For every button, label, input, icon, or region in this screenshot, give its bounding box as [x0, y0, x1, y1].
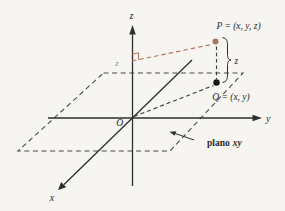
point-p [213, 39, 219, 45]
plane-label-axes: xy [232, 138, 243, 148]
point-p-label: P = (x, y, z) [215, 21, 260, 32]
z-axis-arrowhead-icon [129, 25, 136, 35]
oq-segment [134, 86, 214, 117]
z-axis-label: z [129, 10, 134, 21]
plane-pointer-arrow [174, 133, 195, 140]
y-axis-label: y [265, 113, 271, 124]
p-to-zaxis-segment [132, 45, 212, 62]
point-q-label: Q = (x, y) [212, 92, 250, 103]
coordinate-diagram: z y x O P = (x, y, z) Q = (x, y) z z pla… [0, 0, 285, 211]
origin-label: O [116, 118, 123, 128]
plane-pointer-arrowhead-icon [170, 131, 177, 135]
z-distance-label: z [234, 56, 239, 66]
x-axis-label: x [49, 192, 55, 203]
plane-label: planoxy [207, 138, 242, 148]
plane-label-word: plano [207, 138, 230, 148]
y-axis-arrowhead-icon [253, 115, 263, 121]
point-q [213, 79, 219, 85]
faint-z-label: z [114, 58, 119, 68]
figure-page: z y x O P = (x, y, z) Q = (x, y) z z pla… [0, 0, 285, 211]
x-axis [64, 60, 192, 185]
z-distance-brace [223, 38, 232, 83]
